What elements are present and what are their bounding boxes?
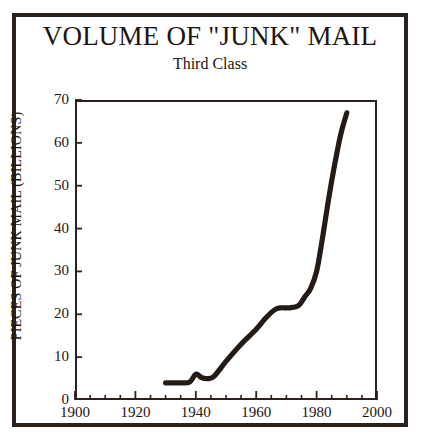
x-tick-label: 1920: [105, 404, 165, 420]
y-tick-label: 70: [41, 92, 69, 107]
data-line-series: [166, 113, 347, 383]
x-tick-label: 1960: [226, 404, 286, 420]
y-tick-label: 30: [41, 263, 69, 278]
title-block: VOLUME OF "JUNK" MAIL Third Class: [12, 20, 408, 74]
chart-figure: VOLUME OF "JUNK" MAIL Third Class PIECES…: [0, 0, 423, 440]
y-tick-label: 40: [41, 221, 69, 236]
x-tick-label: 1900: [45, 404, 105, 420]
y-tick-label: 60: [41, 135, 69, 150]
y-tick-label: 10: [41, 349, 69, 364]
y-tick-label: 50: [41, 178, 69, 193]
x-tick-label: 2000: [347, 404, 407, 420]
plot-canvas: [75, 100, 377, 400]
x-tick-label: 1980: [287, 404, 347, 420]
page-title: VOLUME OF "JUNK" MAIL: [12, 20, 408, 52]
axis-tick-marks: [75, 100, 377, 400]
x-tick-label: 1940: [166, 404, 226, 420]
chart-subtitle: Third Class: [12, 54, 408, 74]
y-axis-title: PIECES OF JUNK MAIL (BILLIONS): [9, 26, 25, 426]
y-tick-label: 20: [41, 306, 69, 321]
